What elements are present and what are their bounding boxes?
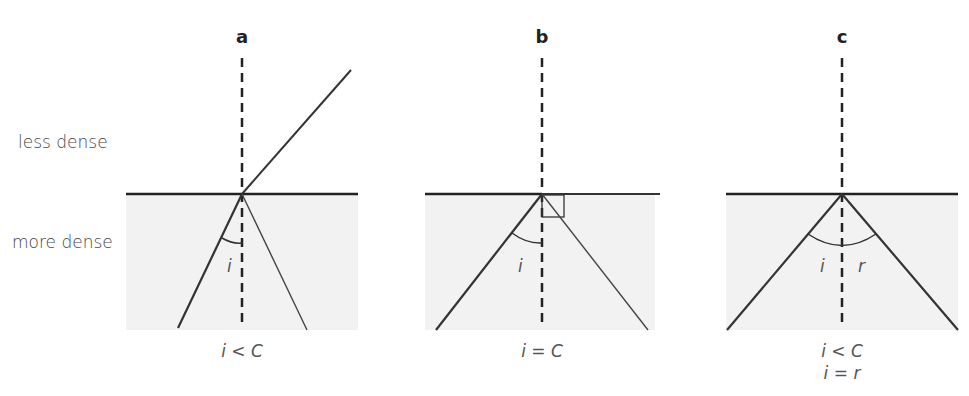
less-dense-label: less dense bbox=[18, 132, 108, 152]
panel-a bbox=[126, 58, 358, 330]
caption-a: i < C bbox=[221, 340, 263, 362]
caption-c-line1: i < C bbox=[821, 340, 863, 362]
panel-c bbox=[726, 58, 958, 330]
dense-medium-b bbox=[425, 194, 655, 330]
caption-c: i < C i = r bbox=[821, 340, 863, 384]
panel-letter-c: c bbox=[837, 26, 848, 47]
caption-b: i = C bbox=[521, 340, 563, 362]
caption-c-line2: i = r bbox=[821, 362, 863, 384]
panel-letter-b: b bbox=[536, 26, 549, 47]
refracted-ray-a bbox=[242, 70, 351, 194]
caption-b-line1: i = C bbox=[521, 340, 563, 362]
refraction-diagram bbox=[0, 0, 969, 396]
panel-b bbox=[425, 58, 660, 330]
angle-label-b: i bbox=[518, 256, 523, 276]
angle-label-a: i bbox=[227, 256, 232, 276]
angle-label-incident-c: i bbox=[820, 256, 825, 276]
panel-letter-a: a bbox=[236, 26, 248, 47]
caption-a-line1: i < C bbox=[221, 340, 263, 362]
more-dense-label: more dense bbox=[12, 232, 113, 252]
angle-label-reflected-c: r bbox=[858, 256, 865, 276]
